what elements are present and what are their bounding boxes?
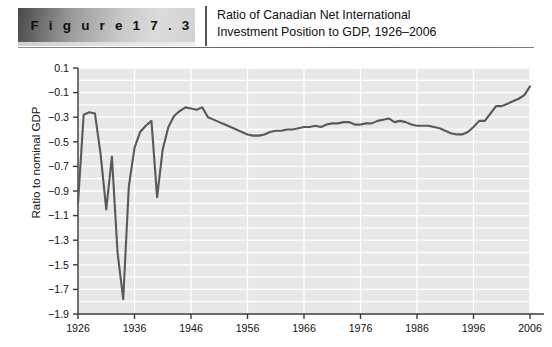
figure-title-line-2: Investment Position to GDP, 1926–2006 bbox=[217, 24, 537, 41]
figure-number-banner: F i g u r e 1 7 . 3 bbox=[18, 8, 195, 42]
gridlines bbox=[78, 68, 530, 314]
svg-text:1996: 1996 bbox=[462, 322, 486, 334]
header-vertical-divider bbox=[205, 6, 207, 46]
svg-text:−1.3: −1.3 bbox=[48, 234, 69, 246]
svg-text:−0.1: −0.1 bbox=[48, 86, 69, 98]
svg-text:−0.5: −0.5 bbox=[48, 136, 69, 148]
y-axis-tick-labels: 0.1−0.1−0.3−0.5−0.7−0.9−1.1−1.3−1.5−1.7−… bbox=[48, 62, 69, 320]
svg-text:−1.1: −1.1 bbox=[48, 209, 69, 221]
svg-text:1946: 1946 bbox=[179, 322, 203, 334]
svg-text:1986: 1986 bbox=[405, 322, 429, 334]
svg-text:1936: 1936 bbox=[123, 322, 147, 334]
svg-text:1976: 1976 bbox=[349, 322, 373, 334]
svg-text:0.1: 0.1 bbox=[54, 62, 69, 74]
header-horizontal-rule bbox=[18, 47, 534, 48]
figure-title-line-1: Ratio of Canadian Net International bbox=[217, 7, 537, 24]
svg-text:1926: 1926 bbox=[66, 322, 90, 334]
chart-figure: Ratio to nominal GDP 0.1−0.1−0.3−0.5−0.7… bbox=[0, 52, 552, 347]
svg-text:−0.9: −0.9 bbox=[48, 185, 69, 197]
svg-text:−1.5: −1.5 bbox=[48, 259, 69, 271]
figure-title: Ratio of Canadian Net International Inve… bbox=[217, 7, 537, 40]
svg-text:−1.7: −1.7 bbox=[48, 283, 69, 295]
svg-text:1956: 1956 bbox=[236, 322, 260, 334]
line-chart: 0.1−0.1−0.3−0.5−0.7−0.9−1.1−1.3−1.5−1.7−… bbox=[0, 52, 552, 347]
svg-text:−1.9: −1.9 bbox=[48, 308, 69, 320]
figure-header: F i g u r e 1 7 . 3 Ratio of Canadian Ne… bbox=[0, 0, 552, 56]
svg-text:−0.7: −0.7 bbox=[48, 160, 69, 172]
figure-number-label: F i g u r e 1 7 . 3 bbox=[20, 18, 192, 33]
svg-text:−0.3: −0.3 bbox=[48, 111, 69, 123]
svg-text:2006: 2006 bbox=[518, 322, 542, 334]
svg-text:1966: 1966 bbox=[292, 322, 316, 334]
x-axis-tick-labels: 192619361946195619661976198619962006 bbox=[66, 322, 542, 334]
